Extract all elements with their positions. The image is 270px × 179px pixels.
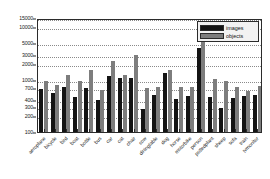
x-axis-tick-label-bottle: bottle xyxy=(45,136,91,179)
bar-group xyxy=(117,20,128,132)
x-axis-tick-label-boat: boat xyxy=(34,136,80,179)
chart-legend: images objects xyxy=(197,21,259,42)
x-axis-tick-mark xyxy=(89,129,90,132)
bar-images-pottedplant xyxy=(208,97,212,132)
bar-images-bicycle xyxy=(51,93,55,132)
y-axis-tick-label: 15000 xyxy=(19,16,33,21)
bar-images-sofa xyxy=(231,98,235,132)
x-axis-tick-label-motorbike: motorbike xyxy=(146,136,192,179)
bar-objects-bird xyxy=(66,75,70,132)
legend-label-images: images xyxy=(226,25,243,31)
bar-objects-bus xyxy=(100,90,104,132)
bar-images-aeroplane xyxy=(39,89,43,132)
bar-images-chair xyxy=(129,78,133,132)
x-axis-tick-mark xyxy=(111,129,112,132)
bar-images-horse xyxy=(174,99,178,132)
bar-images-dog xyxy=(163,73,167,132)
x-axis-tick-label-cat: cat xyxy=(79,136,125,179)
x-axis-tick-label-sofa: sofa xyxy=(191,136,237,179)
y-axis-tick-label: 3000 xyxy=(22,53,33,58)
bar-objects-car xyxy=(111,61,115,132)
x-axis-tick-label-train: train xyxy=(203,136,249,179)
legend-item-objects: objects xyxy=(200,32,256,40)
x-axis-tick-label-cow: cow xyxy=(101,136,147,179)
bar-group xyxy=(49,20,60,132)
bar-objects-bicycle xyxy=(55,85,59,132)
bar-objects-aeroplane xyxy=(44,81,48,132)
x-axis-tick-label-chair: chair xyxy=(90,136,136,179)
bar-images-bottle xyxy=(84,88,88,132)
x-axis-tick-label-pottedplant: pottedplant xyxy=(169,136,215,179)
bar-group xyxy=(151,20,162,132)
bar-objects-train xyxy=(246,91,250,132)
bar-images-train xyxy=(242,96,246,132)
bar-images-bus xyxy=(96,100,100,132)
x-axis-tick-mark xyxy=(122,129,123,132)
y-axis-tick-mark xyxy=(33,133,36,134)
x-axis-tick-mark xyxy=(156,129,157,132)
bar-images-person xyxy=(197,48,201,132)
y-axis-tick-mark xyxy=(33,28,36,29)
x-axis-tick-label-bus: bus xyxy=(56,136,102,179)
y-axis-tick-mark xyxy=(33,19,36,20)
y-axis-tick-label: 700 xyxy=(25,86,33,91)
legend-swatch-objects xyxy=(200,33,224,39)
x-axis-tick-mark xyxy=(100,129,101,132)
x-axis-tick-label-tvmonitor: tvmonitor xyxy=(214,136,260,179)
x-axis-tick-label-dog: dog xyxy=(124,136,170,179)
bar-group xyxy=(128,20,139,132)
legend-swatch-images xyxy=(200,25,224,31)
y-axis-tick-mark xyxy=(33,43,36,44)
bar-objects-chair xyxy=(134,55,138,132)
x-axis-tick-mark xyxy=(145,129,146,132)
x-axis-tick-mark xyxy=(44,129,45,132)
bar-objects-sofa xyxy=(235,87,239,132)
bar-group xyxy=(38,20,49,132)
x-axis-tick-mark xyxy=(179,129,180,132)
bar-group xyxy=(139,20,150,132)
y-axis-tick-label: 300 xyxy=(25,105,33,110)
bar-group xyxy=(94,20,105,132)
bar-objects-motorbike xyxy=(190,87,194,132)
bar-objects-boat xyxy=(78,81,82,132)
bar-objects-cow xyxy=(145,88,149,132)
y-axis-tick-mark xyxy=(33,117,36,118)
y-axis-tick-mark xyxy=(33,108,36,109)
x-axis-tick-mark xyxy=(55,129,56,132)
x-axis-tick-mark xyxy=(257,129,258,132)
bar-objects-diningtable xyxy=(156,87,160,132)
x-axis-tick-mark xyxy=(235,129,236,132)
y-axis-tick-label: 2000 xyxy=(22,62,33,67)
bar-objects-person xyxy=(201,27,205,132)
bar-objects-sheep xyxy=(224,81,228,132)
bar-objects-dog xyxy=(168,70,172,132)
bar-images-bird xyxy=(62,87,66,132)
x-axis-tick-label-horse: horse xyxy=(135,136,181,179)
x-axis-tick-label-car: car xyxy=(68,136,114,179)
x-axis-tick-mark xyxy=(190,129,191,132)
y-axis-tick-label: 5000 xyxy=(22,41,33,46)
y-axis-tick-mark xyxy=(33,88,36,89)
y-axis-tick-label: 1000 xyxy=(22,78,33,83)
x-axis-tick-mark xyxy=(246,129,247,132)
x-axis-tick-label-aeroplane: aeroplane xyxy=(0,136,46,179)
legend-label-objects: objects xyxy=(226,33,243,39)
x-axis-tick-label-person: person xyxy=(158,136,204,179)
bar-objects-tvmonitor xyxy=(258,86,262,132)
bar-group xyxy=(106,20,117,132)
y-axis-tick-mark xyxy=(33,101,36,102)
x-axis-tick-label-bird: bird xyxy=(23,136,69,179)
x-axis-tick-mark xyxy=(167,129,168,132)
x-axis-tick-mark xyxy=(77,129,78,132)
bar-objects-cat xyxy=(123,75,127,132)
bar-images-car xyxy=(107,76,111,132)
bar-objects-bottle xyxy=(89,70,93,132)
bar-group xyxy=(162,20,173,132)
x-axis-tick-label-diningtable: diningtable xyxy=(113,136,159,179)
x-axis-tick-label-bicycle: bicycle xyxy=(11,136,57,179)
bar-images-tvmonitor xyxy=(253,95,257,133)
x-axis-tick-mark xyxy=(201,129,202,132)
bar-images-cat xyxy=(118,78,122,132)
y-axis-tick-label: 100 xyxy=(25,130,33,135)
bar-images-diningtable xyxy=(152,95,156,132)
